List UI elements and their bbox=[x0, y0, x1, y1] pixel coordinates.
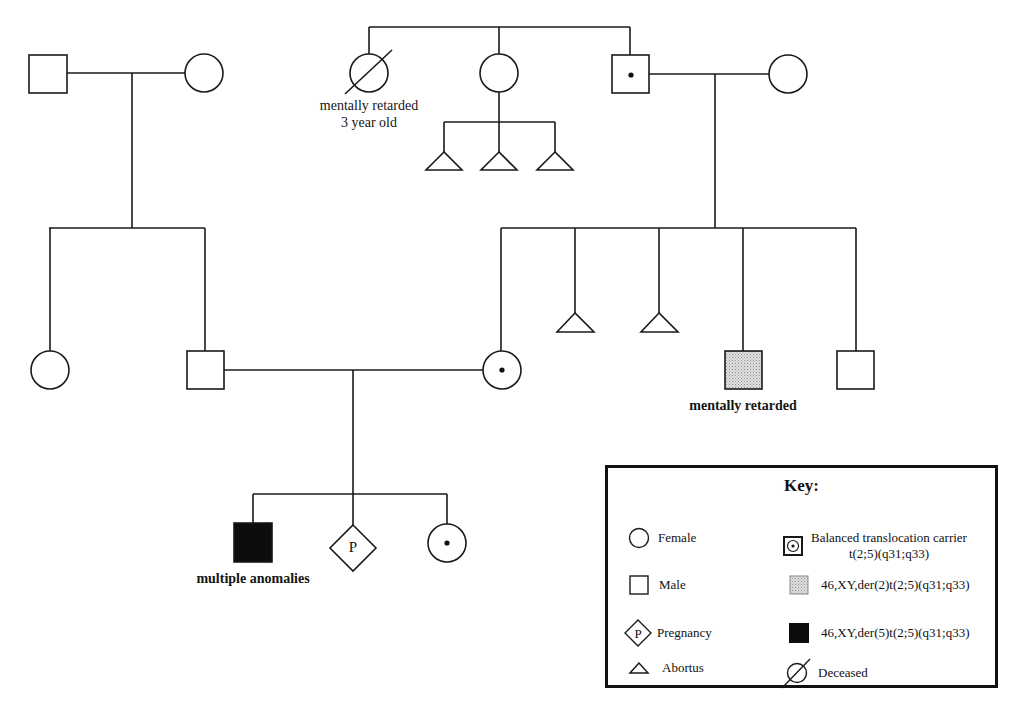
grandmother-maternal-female-circle bbox=[769, 55, 807, 93]
legend-label-pregnancy: Pregnancy bbox=[657, 625, 712, 641]
legend-label-carrier-line2: t(2;5)(q31;q33) bbox=[849, 546, 929, 561]
proband-filled-male-square bbox=[234, 523, 272, 562]
legend-label-carrier-line1: Balanced translocation carrier bbox=[811, 530, 967, 545]
legend-key: Key: Female Male P Pregnancy Abortus Bal… bbox=[605, 465, 998, 688]
legend-item-male: Male bbox=[629, 575, 686, 595]
deceased-aunt-label-line1: mentally retarded bbox=[306, 97, 432, 114]
abortus-triangle bbox=[481, 152, 517, 170]
left-grandparents bbox=[29, 54, 223, 351]
father-male-square bbox=[187, 351, 224, 389]
parents-couple bbox=[31, 351, 521, 525]
carrier-dot bbox=[628, 72, 633, 77]
pregnancy-diamond-icon: P bbox=[623, 618, 653, 648]
carrier-dot bbox=[499, 367, 504, 372]
legend-label-der5: 46,XY,der(5)t(2;5)(q31;q33) bbox=[821, 625, 970, 641]
male-square bbox=[837, 351, 874, 389]
grandfather-paternal-male-square bbox=[29, 55, 67, 93]
legend-item-der5: 46,XY,der(5)t(2;5)(q31;q33) bbox=[789, 623, 970, 643]
maternal-grandparents bbox=[501, 55, 874, 389]
abortus-triangle bbox=[426, 152, 462, 170]
filled-square-icon bbox=[789, 623, 809, 643]
legend-title: Key: bbox=[608, 476, 995, 496]
legend-label-female: Female bbox=[658, 530, 696, 546]
abortus-triangle bbox=[537, 152, 573, 170]
stippled-male-square bbox=[725, 351, 762, 389]
legend-item-der2: 46,XY,der(2)t(2;5)(q31;q33) bbox=[789, 575, 970, 595]
abortus-triangle-icon bbox=[628, 661, 650, 675]
legend-item-carrier: Balanced translocation carrier t(2;5)(q3… bbox=[783, 530, 967, 562]
grandmother-paternal-female-circle bbox=[185, 54, 223, 92]
male-square-icon bbox=[629, 575, 649, 595]
legend-item-female: Female bbox=[628, 527, 696, 549]
stippled-square-icon bbox=[789, 575, 809, 595]
abortus-triangle bbox=[557, 313, 594, 332]
pregnancy-symbol-text: P bbox=[343, 539, 363, 556]
deceased-aunt-label-line2: 3 year old bbox=[306, 114, 432, 131]
abortus-triangle bbox=[641, 313, 678, 332]
carrier-dot bbox=[444, 540, 449, 545]
legend-label-abortus: Abortus bbox=[662, 660, 704, 676]
carrier-dot-square-icon bbox=[783, 536, 803, 556]
legend-label-der2: 46,XY,der(2)t(2;5)(q31;q33) bbox=[821, 577, 970, 593]
legend-label-deceased: Deceased bbox=[818, 665, 868, 681]
legend-item-pregnancy: P Pregnancy bbox=[623, 618, 712, 648]
female-circle-icon bbox=[628, 527, 650, 549]
proband-label: multiple anomalies bbox=[190, 570, 316, 587]
deceased-slashed-circle-icon bbox=[780, 656, 814, 690]
female-circle bbox=[480, 54, 518, 92]
legend-label-male: Male bbox=[659, 577, 686, 593]
uncle-label: mentally retarded bbox=[680, 397, 806, 414]
legend-item-abortus: Abortus bbox=[628, 660, 704, 676]
legend-item-deceased: Deceased bbox=[780, 656, 868, 690]
svg-text:P: P bbox=[634, 626, 641, 641]
legend-label-carrier: Balanced translocation carrier t(2;5)(q3… bbox=[811, 530, 967, 562]
deceased-aunt-label: mentally retarded 3 year old bbox=[306, 97, 432, 131]
aunt-female-circle bbox=[31, 351, 69, 389]
